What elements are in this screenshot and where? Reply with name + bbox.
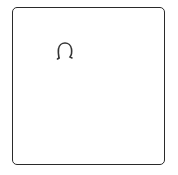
headphones-icon[interactable] — [56, 41, 74, 61]
card-panel — [12, 7, 165, 165]
